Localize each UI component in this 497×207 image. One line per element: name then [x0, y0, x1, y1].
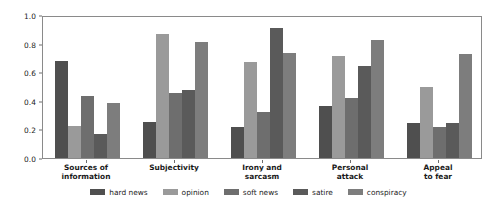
legend-item[interactable]: hard news: [90, 188, 147, 197]
x-axis-label-line: to fear: [424, 173, 453, 182]
bar: [319, 106, 332, 158]
y-axis-tick-label: 0.8: [24, 40, 36, 49]
bar: [407, 123, 420, 158]
x-axis-tick-label: Subjectivity: [149, 164, 199, 173]
bar-group: [319, 17, 384, 158]
bar: [182, 90, 195, 158]
legend-item[interactable]: opinion: [163, 188, 209, 197]
bar: [420, 87, 433, 158]
bar: [345, 98, 358, 158]
bar: [459, 54, 472, 158]
bar: [446, 123, 459, 158]
bar: [231, 127, 244, 158]
legend-label: hard news: [109, 188, 147, 197]
bar: [143, 122, 156, 158]
legend-label: conspiracy: [367, 188, 407, 197]
bar-group: [407, 17, 472, 158]
legend-item[interactable]: conspiracy: [348, 188, 407, 197]
plot-area: [42, 16, 482, 159]
bar: [55, 61, 68, 158]
bar: [94, 134, 107, 158]
bar: [195, 42, 208, 158]
x-axis-tick-label: Appealto fear: [424, 164, 453, 181]
y-axis-tick-label: 0.6: [24, 69, 36, 78]
chart-legend: hard newsopinionsoft newssatireconspirac…: [0, 184, 497, 200]
x-axis-tick-label: Personalattack: [332, 164, 368, 181]
bar: [270, 28, 283, 158]
legend-swatch-icon: [293, 189, 308, 195]
bar: [107, 103, 120, 158]
legend-swatch-icon: [90, 189, 105, 195]
legend-label: opinion: [182, 188, 209, 197]
x-axis-tick-label: Sources ofinformation: [62, 164, 111, 181]
legend-item[interactable]: satire: [293, 188, 333, 197]
bar: [169, 93, 182, 158]
bar: [68, 126, 81, 158]
bar: [156, 34, 169, 158]
y-axis-tick-label: 0.0: [24, 155, 36, 164]
y-axis-tick-label: 0.2: [24, 126, 36, 135]
legend-label: soft news: [243, 188, 278, 197]
bar: [244, 62, 257, 158]
bar-group: [231, 17, 296, 158]
bar-group: [143, 17, 208, 158]
x-axis-label-line: Subjectivity: [149, 164, 199, 173]
bar: [332, 56, 345, 158]
x-axis-tick-label: Irony andsarcasm: [242, 164, 282, 181]
bar: [358, 66, 371, 158]
x-axis-label-line: information: [62, 173, 111, 182]
legend-item[interactable]: soft news: [224, 188, 278, 197]
x-axis-label-line: sarcasm: [242, 173, 282, 182]
y-axis: 0.00.20.40.60.81.0: [0, 16, 42, 159]
bar: [257, 112, 270, 158]
bars-layer: [43, 17, 481, 158]
bar: [371, 40, 384, 158]
y-axis-tick-label: 0.4: [24, 97, 36, 106]
y-axis-tick-label: 1.0: [24, 12, 36, 21]
bar: [81, 96, 94, 158]
x-axis-label-line: attack: [332, 173, 368, 182]
legend-label: satire: [312, 188, 333, 197]
legend-swatch-icon: [224, 189, 239, 195]
x-axis: Sources ofinformationSubjectivityIrony a…: [42, 161, 482, 185]
legend-swatch-icon: [163, 189, 178, 195]
bar: [283, 53, 296, 158]
bar: [433, 127, 446, 158]
bar-chart-figure: 0.00.20.40.60.81.0 Sources ofinformation…: [0, 0, 497, 207]
legend-swatch-icon: [348, 189, 363, 195]
bar-group: [55, 17, 120, 158]
